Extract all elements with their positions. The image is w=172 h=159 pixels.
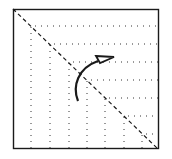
diagonal-fold-line bbox=[13, 9, 158, 149]
diagram-canvas bbox=[0, 0, 172, 159]
fold-arrow-icon bbox=[76, 56, 114, 101]
